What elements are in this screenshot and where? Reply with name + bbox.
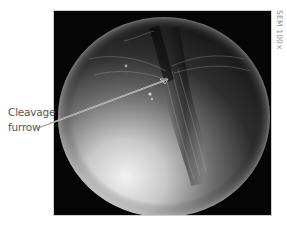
magnification-note: SEM 100× (274, 10, 286, 50)
furrow-label: furrow (8, 121, 40, 133)
egg-cell-image (54, 11, 272, 216)
magnification-text: SEM 100× (275, 10, 284, 51)
micrograph-figure: Cleavage furrow SEM 100× (0, 0, 287, 226)
sem-image-panel (53, 10, 272, 216)
cleavage-label: Cleavage (8, 106, 55, 118)
